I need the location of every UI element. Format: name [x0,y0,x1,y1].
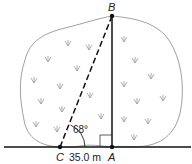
label-b: B [108,1,115,13]
triangle-diagram: B C A 68° 35.0 m [0,0,192,164]
distance-label: 35.0 m [69,151,101,163]
point-a [110,145,114,149]
label-a: A [107,151,115,163]
bush-outline [20,16,182,147]
point-b [110,14,114,18]
angle-label: 68° [73,124,88,135]
label-c: C [56,151,64,163]
point-c [58,145,62,149]
right-angle-marker [100,135,112,147]
